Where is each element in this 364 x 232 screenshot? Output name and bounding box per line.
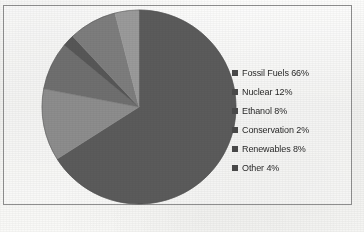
legend-item-label: Ethanol 8% [242, 106, 287, 116]
screenshot-root: Fossil Fuels 66% Nuclear 12% Ethanol 8% … [0, 0, 364, 232]
legend-swatch-icon [232, 127, 238, 133]
chart-legend: Fossil Fuels 66% Nuclear 12% Ethanol 8% … [232, 64, 350, 178]
legend-item-fossil-fuels[interactable]: Fossil Fuels 66% [232, 64, 350, 82]
legend-swatch-icon [232, 165, 238, 171]
legend-item-nuclear[interactable]: Nuclear 12% [232, 83, 350, 101]
legend-swatch-icon [232, 146, 238, 152]
legend-swatch-icon [232, 89, 238, 95]
pie-chart-area [39, 9, 239, 205]
chart-frame: Fossil Fuels 66% Nuclear 12% Ethanol 8% … [3, 5, 352, 205]
legend-item-other[interactable]: Other 4% [232, 159, 350, 177]
legend-item-label: Fossil Fuels 66% [242, 68, 309, 78]
legend-item-label: Other 4% [242, 163, 279, 173]
legend-item-label: Conservation 2% [242, 125, 309, 135]
legend-item-renewables[interactable]: Renewables 8% [232, 140, 350, 158]
pie-chart-svg [39, 9, 239, 205]
legend-item-label: Renewables 8% [242, 144, 306, 154]
legend-swatch-icon [232, 70, 238, 76]
legend-swatch-icon [232, 108, 238, 114]
legend-item-ethanol[interactable]: Ethanol 8% [232, 102, 350, 120]
pie-slice-group [42, 10, 236, 204]
legend-item-label: Nuclear 12% [242, 87, 292, 97]
legend-item-conservation[interactable]: Conservation 2% [232, 121, 350, 139]
